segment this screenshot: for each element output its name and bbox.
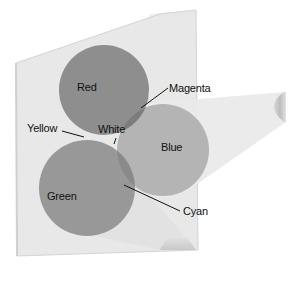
additive-color-diagram: Red Magenta Yellow White Blue Green Cyan — [0, 0, 302, 281]
label-blue: Blue — [161, 141, 182, 153]
diagram-canvas — [0, 0, 302, 281]
screen-edge — [16, 63, 17, 256]
label-green: Green — [47, 190, 77, 202]
label-magenta: Magenta — [169, 82, 210, 94]
label-cyan: Cyan — [183, 205, 208, 217]
label-white: White — [98, 123, 125, 135]
label-red: Red — [77, 81, 97, 93]
label-yellow: Yellow — [27, 122, 57, 134]
